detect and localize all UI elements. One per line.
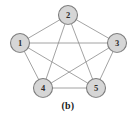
- node-layer: 12345: [11, 6, 127, 98]
- graph-node-5[interactable]: 5: [87, 79, 106, 98]
- node-circle-3: [108, 34, 127, 53]
- node-circle-4: [34, 79, 53, 98]
- graph-node-2[interactable]: 2: [59, 6, 78, 25]
- figure-caption: (b): [0, 100, 136, 111]
- node-circle-1: [11, 34, 30, 53]
- graph-edge-2-4: [43, 15, 68, 88]
- graph-node-4[interactable]: 4: [34, 79, 53, 98]
- graph-node-3[interactable]: 3: [108, 34, 127, 53]
- figure-container: 12345 (b): [0, 0, 136, 121]
- node-circle-5: [87, 79, 106, 98]
- graph-edge-2-5: [68, 15, 96, 88]
- node-circle-2: [59, 6, 78, 25]
- edge-layer: [20, 15, 117, 88]
- graph-node-1[interactable]: 1: [11, 34, 30, 53]
- graph-edge-3-4: [43, 43, 117, 88]
